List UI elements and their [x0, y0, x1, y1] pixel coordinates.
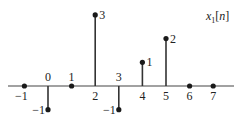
stem-point: [69, 83, 74, 88]
x-tick-label: 6: [187, 89, 193, 103]
stem-point: [140, 60, 145, 65]
signal-title: x1[n]: [205, 9, 229, 25]
stem-point: [211, 83, 216, 88]
x-tick-label: 4: [139, 89, 145, 103]
x-tick-label: 7: [210, 89, 216, 103]
x-tick-label: 1: [69, 70, 75, 84]
title-argument: [n]: [215, 9, 229, 23]
x-tick-label: 5: [163, 89, 169, 103]
x-tick-label: 0: [45, 70, 51, 84]
stem-point: [116, 107, 121, 112]
stem-plot: −10−11233−1415267 x1[n]: [0, 0, 248, 119]
value-label: −1: [103, 103, 116, 117]
x-tick-label: 2: [92, 89, 98, 103]
value-label: −1: [32, 103, 45, 117]
stem-point: [163, 36, 168, 41]
stem-point: [93, 12, 98, 17]
value-label: 3: [99, 8, 105, 22]
x-tick-label: 3: [116, 70, 122, 84]
stem-point: [187, 83, 192, 88]
stem-point: [45, 107, 50, 112]
x-tick-label: −1: [15, 89, 28, 103]
stem-point: [22, 83, 27, 88]
value-label: 1: [146, 55, 152, 69]
value-label: 2: [170, 32, 176, 46]
